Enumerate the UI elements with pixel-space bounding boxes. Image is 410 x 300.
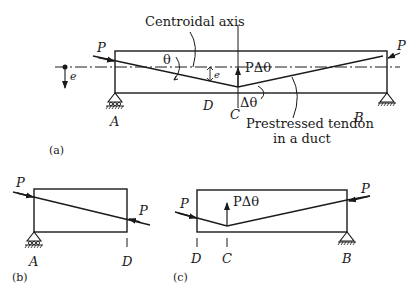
centroidal-axis-label: Centroidal axis bbox=[145, 14, 245, 29]
upward-force-label: PΔθ bbox=[245, 60, 271, 75]
support-a bbox=[106, 93, 124, 109]
support-label-a-b: A bbox=[28, 254, 38, 269]
tendon-c bbox=[175, 196, 370, 226]
caption-c: (c) bbox=[173, 271, 188, 284]
figure-b: P P A D (b) bbox=[12, 175, 150, 284]
tendon-leader bbox=[292, 77, 297, 118]
angle-theta-label: θ bbox=[163, 52, 171, 67]
point-d-label-c: D bbox=[190, 251, 202, 266]
figure-a: P P e e θ PΔθ Δθ Centroidal axis Prestre… bbox=[49, 14, 406, 157]
upward-force-label-c: PΔθ bbox=[233, 194, 259, 209]
eccentricity-label-left: e bbox=[70, 70, 77, 83]
force-arrow-left-b bbox=[17, 193, 33, 197]
point-c-label-c: C bbox=[222, 251, 232, 266]
caption-b: (b) bbox=[12, 271, 28, 284]
eccentricity-label-mid: e bbox=[214, 69, 220, 80]
point-d-label: D bbox=[202, 98, 214, 113]
beam-c bbox=[197, 190, 347, 232]
figure-c: P P PΔθ D C B (c) bbox=[173, 181, 370, 284]
centroidal-axis-leader bbox=[190, 32, 195, 67]
angle-change-label: Δθ bbox=[240, 95, 257, 110]
support-b-c bbox=[338, 232, 356, 245]
force-label-left-b: P bbox=[15, 175, 25, 190]
beam-b bbox=[34, 189, 127, 232]
angle-theta-arc bbox=[174, 57, 180, 80]
force-label-right: P bbox=[396, 38, 406, 53]
force-label-right-c: P bbox=[360, 181, 370, 196]
force-arrow-left-c bbox=[178, 213, 196, 218]
support-label-b: B bbox=[353, 110, 364, 125]
support-b bbox=[378, 93, 396, 106]
caption-a: (a) bbox=[49, 144, 64, 157]
force-label-right-b: P bbox=[138, 203, 148, 218]
prestressed-beam-diagram: P P e e θ PΔθ Δθ Centroidal axis Prestre… bbox=[0, 0, 410, 300]
support-label-a: A bbox=[109, 114, 119, 129]
force-label-left: P bbox=[96, 40, 106, 55]
support-a-b bbox=[25, 232, 43, 248]
force-arrow-left bbox=[98, 58, 114, 62]
support-label-b-c: B bbox=[341, 251, 352, 266]
tendon-label-line2: in a duct bbox=[273, 131, 332, 146]
force-arrow-right bbox=[388, 53, 400, 58]
force-label-left-c: P bbox=[179, 196, 189, 211]
point-c-label: C bbox=[230, 107, 240, 122]
point-d-label-b: D bbox=[121, 254, 133, 269]
